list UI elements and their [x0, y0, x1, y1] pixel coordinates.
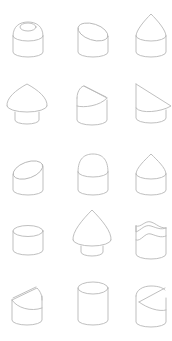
shape-cylinder-slanted-cut-top: [75, 16, 111, 60]
shape-cylinder-tall-cone-cap: [70, 208, 114, 260]
shape-cylinder-conical-top-2: [133, 152, 169, 198]
shape-cylinder-dome-top: [75, 152, 111, 198]
shape-cylinder-wavy-top: [133, 218, 169, 262]
shape-cylinder-wide-cone-cap: [4, 82, 50, 128]
shape-cylinder-wedge-cut-top-3: [133, 284, 169, 330]
shape-cylinder-large-slanted-cap: [133, 80, 172, 126]
shape-cylinder-wedge-cut-top: [74, 84, 110, 128]
shape-tall-cylinder-flat-top: [75, 278, 111, 328]
shape-short-cylinder-flat-top: [10, 222, 46, 258]
shape-cylinder-slanted-cut-top-2: [10, 154, 46, 198]
shape-cylinder-conical-top: [133, 12, 169, 60]
shape-cylinder-wedge-cut-top-2: [9, 284, 45, 328]
shape-cylinder-rounded-top-with-boss: [10, 18, 46, 60]
